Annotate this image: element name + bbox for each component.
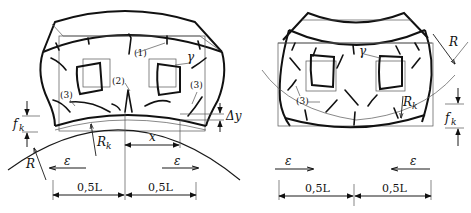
- left-delta-y-dimension: Δy: [180, 103, 242, 132]
- left-window-right: [157, 64, 180, 95]
- crack-label-1: (1): [134, 48, 147, 58]
- svg-text:R: R: [402, 95, 412, 109]
- crack-label-3-right: (3): [190, 80, 203, 90]
- left-reference-frame: [59, 36, 205, 131]
- svg-text:ε: ε: [285, 154, 291, 168]
- left-fk-dimension: f k: [12, 101, 40, 147]
- right-support-arc-R: [262, 70, 455, 120]
- svg-text:k: k: [451, 117, 456, 127]
- svg-text:Δy: Δy: [225, 109, 242, 123]
- right-length-dimensions: 0,5L 0,5L: [279, 180, 431, 206]
- left-length-dimensions: 0,5L 0,5L: [53, 180, 196, 200]
- crack-label-3-left: (3): [60, 90, 73, 100]
- left-side-wall-right: [206, 52, 224, 126]
- svg-text:k: k: [412, 101, 417, 111]
- right-side-wall-right: [422, 30, 432, 122]
- svg-text:k: k: [106, 141, 111, 151]
- svg-text:0,5L: 0,5L: [305, 182, 330, 195]
- right-window-left: [311, 55, 334, 87]
- left-inner-arc: [43, 35, 222, 52]
- svg-text:ε: ε: [64, 154, 70, 168]
- left-panel-convex: (1) (2) (3) (3) γ f k Δy R k: [8, 11, 242, 200]
- left-cracks-top: [56, 34, 200, 54]
- left-epsilon-arrows: ε ε: [50, 154, 198, 168]
- right-panel-concave: γ (3) R R k f k ε ε: [262, 13, 468, 206]
- svg-text:R: R: [448, 35, 458, 49]
- right-cracks: [288, 43, 420, 125]
- gamma-label-right: γ: [359, 44, 367, 58]
- svg-text:k: k: [19, 123, 24, 133]
- svg-text:R: R: [96, 135, 106, 149]
- svg-text:R: R: [25, 157, 35, 171]
- left-Rk-label: R k: [91, 124, 111, 156]
- left-cracks-side: [51, 58, 206, 116]
- technical-diagram: (1) (2) (3) (3) γ f k Δy R k: [0, 0, 471, 213]
- left-side-wall-left: [40, 52, 55, 126]
- left-R-label: R: [25, 148, 46, 180]
- svg-text:ε: ε: [174, 154, 180, 168]
- svg-text:0,5L: 0,5L: [148, 181, 173, 194]
- crack-label-3-right-panel: (3): [296, 96, 309, 106]
- svg-text:0,5L: 0,5L: [77, 181, 102, 194]
- left-top-edge: [43, 11, 222, 52]
- left-window-frame-right: [149, 59, 176, 87]
- left-window-left: [77, 63, 102, 94]
- right-epsilon-arrows: ε ε: [275, 154, 430, 169]
- svg-text:0,5L: 0,5L: [382, 182, 407, 195]
- svg-text:x: x: [149, 130, 156, 144]
- gamma-label-left: γ: [187, 50, 195, 64]
- right-Rk-label: R k: [401, 95, 417, 118]
- crack-label-2: (2): [112, 76, 125, 86]
- right-side-wall-left: [280, 30, 290, 126]
- right-fk-dimension: f k: [444, 88, 464, 146]
- svg-text:ε: ε: [410, 154, 416, 168]
